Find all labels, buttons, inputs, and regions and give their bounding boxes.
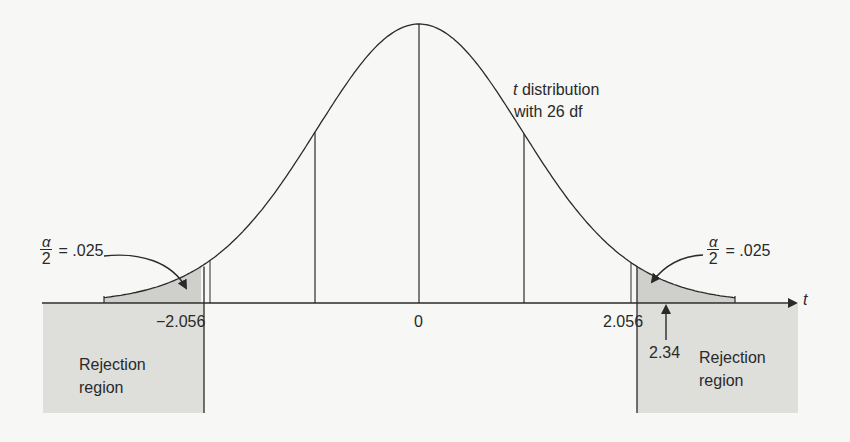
rejection-region-right-label: Rejection region (699, 346, 766, 392)
t-distribution-figure: t distribution with 26 df α2 = .025 α2 =… (0, 0, 850, 442)
alpha-value-left: = .025 (59, 242, 104, 260)
alpha-value-right: = .025 (726, 242, 771, 260)
alpha-symbol: α (40, 234, 53, 249)
curve-title-line1: distribution (517, 81, 599, 98)
right-tail-area (637, 267, 735, 304)
test-statistic-label: 2.34 (649, 345, 680, 361)
curve-title-line2: with 26 df (514, 104, 582, 120)
axis-variable-label: t (803, 292, 807, 308)
tick-label-right: 2.056 (603, 314, 643, 330)
left-tail-area (104, 267, 201, 304)
rejection-region-left-label: Rejection region (79, 353, 146, 399)
tick-label-left: −2.056 (156, 314, 205, 330)
alpha-label-right: α2 = .025 (707, 234, 771, 267)
curve-title: t distribution (513, 82, 599, 98)
tick-label-zero: 0 (414, 314, 423, 330)
alpha-label-left: α2 = .025 (40, 234, 104, 267)
alpha-symbol: α (707, 234, 720, 249)
